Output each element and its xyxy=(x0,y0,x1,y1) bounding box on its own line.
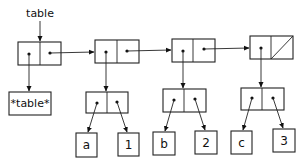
nil-slash-icon xyxy=(271,36,293,59)
atom-box-b: b xyxy=(153,132,175,155)
spine-cell-1 xyxy=(95,40,139,63)
header-atom-box: *table* xyxy=(9,92,51,115)
value-arrow-1 xyxy=(117,102,127,132)
header-atom-label: *table* xyxy=(11,97,50,110)
value-arrow-3 xyxy=(273,98,283,128)
svg-text:3: 3 xyxy=(280,134,288,148)
cdr-arrow-0 xyxy=(50,52,94,53)
cdr-arrow-1 xyxy=(127,50,171,51)
record-cell-2 xyxy=(163,89,206,112)
key-arrow-3 xyxy=(243,98,252,130)
atom-box-c: c xyxy=(231,131,252,154)
spine-cell-2 xyxy=(172,39,215,62)
record-cell-1 xyxy=(86,92,128,113)
atom-box-3: 3 xyxy=(273,129,295,152)
atom-box-a: a xyxy=(76,133,97,157)
svg-text:1: 1 xyxy=(125,138,133,152)
svg-text:2: 2 xyxy=(202,136,210,150)
record-cell-3 xyxy=(241,88,284,110)
key-arrow-1 xyxy=(88,103,97,132)
box-pointer-diagram: table *table* xyxy=(0,0,306,167)
atom-box-2: 2 xyxy=(195,131,217,154)
atom-box-1: 1 xyxy=(118,133,139,156)
svg-text:b: b xyxy=(160,137,168,151)
spine-cell-0 xyxy=(18,42,61,65)
svg-text:c: c xyxy=(238,136,245,150)
spine-cell-3 xyxy=(250,36,293,59)
key-arrow-2 xyxy=(165,100,174,131)
value-arrow-2 xyxy=(195,99,205,130)
cdr-arrow-2 xyxy=(204,48,249,49)
variable-label-table: table xyxy=(26,7,54,20)
svg-text:a: a xyxy=(83,138,90,152)
